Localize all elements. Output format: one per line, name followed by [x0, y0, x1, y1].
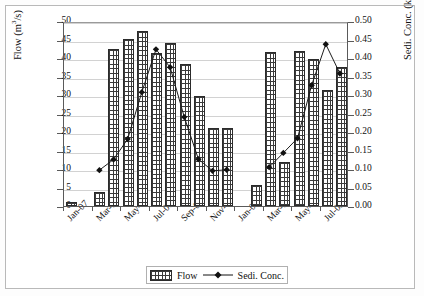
sediment-marker-Jul-08 [323, 41, 329, 47]
y-tick-mark-right [348, 133, 354, 134]
y-tick-label-right: 0.30 [355, 90, 399, 100]
y-tick-mark-right [348, 41, 354, 42]
legend-label-flow: Flow [177, 270, 198, 281]
x-tick-mark [234, 207, 235, 211]
sediment-marker-Dec-07 [224, 167, 230, 173]
x-tick-mark [206, 207, 207, 211]
x-tick-mark [92, 207, 93, 211]
y-tick-mark-right [348, 189, 354, 190]
y-tick-mark-right [348, 207, 354, 208]
y-tick-label-right: 0.20 [355, 127, 399, 137]
sediment-marker-Jun-07 [139, 89, 145, 95]
y-tick-label-right: 0.05 [355, 183, 399, 193]
chart-figure: Flow (m3/s) Sedi. Conc. (kg/m3) 05101520… [0, 0, 424, 296]
x-tick-mark [291, 207, 292, 211]
x-tick-mark [120, 207, 121, 211]
x-tick-mark [177, 207, 178, 211]
y-tick-mark-right [348, 96, 354, 97]
sediment-marker-Aug-08 [337, 70, 343, 76]
y-axis-label-left: Flow (m3/s) [10, 10, 23, 60]
y-tick-label-right: 0.35 [355, 72, 399, 82]
sediment-line-segment [99, 49, 226, 171]
legend-swatch-flow [150, 270, 172, 281]
plot-area [63, 22, 348, 207]
y-tick-label-right: 0.00 [355, 201, 399, 211]
y-tick-label-right: 0.10 [355, 164, 399, 174]
x-tick-mark [320, 207, 321, 211]
y-tick-mark-right [348, 115, 354, 116]
y-tick-mark-right [348, 152, 354, 153]
sediment-marker-Sep-07 [181, 114, 187, 120]
y-tick-mark-right [348, 78, 354, 79]
legend-label-sediment: Sedi. Conc. [238, 270, 284, 281]
y-axis-label-right: Sedi. Conc. (kg/m3) [400, 0, 413, 60]
y-tick-label-right: 0.15 [355, 146, 399, 156]
y-tick-label-right: 0.40 [355, 53, 399, 63]
chart-legend: Flow Sedi. Conc. [146, 266, 288, 284]
x-tick-mark [149, 207, 150, 211]
sediment-marker-Jun-08 [308, 82, 314, 88]
y-tick-mark-right [348, 170, 354, 171]
sediment-marker-May-07 [124, 136, 130, 142]
y-tick-label-right: 0.50 [355, 16, 399, 26]
legend-swatch-sediment [203, 270, 233, 280]
y-tick-label-right: 0.45 [355, 35, 399, 45]
x-tick-mark [263, 207, 264, 211]
y-tick-label-right: 0.25 [355, 109, 399, 119]
line-series-sediment-concentration [64, 23, 347, 206]
sediment-line-segment [269, 44, 340, 167]
y-tick-mark-right [348, 22, 354, 23]
x-tick-mark [63, 207, 64, 211]
y-tick-mark-right [348, 59, 354, 60]
